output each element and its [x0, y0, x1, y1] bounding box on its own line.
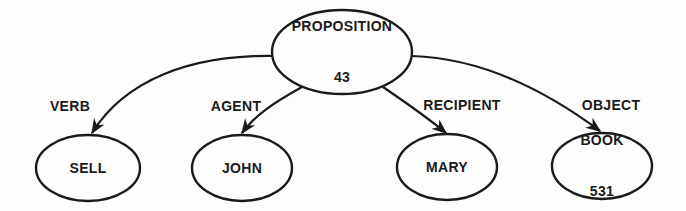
book-node-label: BOOK [580, 132, 623, 149]
mary-node: MARY [426, 125, 468, 210]
recipient-edge-label: RECIPIENT [423, 97, 500, 114]
agent-edge-label: AGENT [211, 98, 262, 115]
verb-edge-arrow [92, 56, 273, 133]
mary-node-label: MARY [426, 159, 468, 176]
object-edge-label: OBJECT [582, 97, 641, 114]
john-node-label: JOHN [222, 160, 262, 177]
proposition-node: PROPOSITION 43 [292, 0, 393, 120]
sell-node-label: SELL [70, 160, 107, 177]
sell-node: SELL [70, 126, 107, 211]
john-node: JOHN [222, 126, 262, 211]
object-edge-arrow [412, 56, 600, 131]
book-node-number: 531 [580, 183, 623, 200]
proposition-node-number: 43 [292, 69, 393, 86]
proposition-node-label: PROPOSITION [292, 18, 393, 35]
propositional-network-diagram: PROPOSITION 43 SELL JOHN MARY BOOK 531 V… [0, 0, 686, 210]
verb-edge-label: VERB [50, 98, 90, 115]
book-node: BOOK 531 [580, 98, 623, 210]
